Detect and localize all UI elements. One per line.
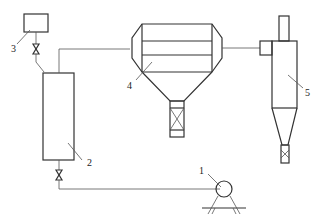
label-1: 1 [199, 165, 204, 176]
label-3: 3 [11, 43, 16, 54]
leader-5 [288, 75, 303, 88]
leader-1 [208, 174, 221, 187]
column-2 [43, 73, 74, 160]
leader-4 [136, 62, 152, 80]
pipe-column-vessel [59, 49, 130, 73]
label-5: 5 [305, 87, 310, 98]
vessel-4 [132, 24, 222, 137]
valve-top-icon [33, 44, 39, 54]
pipe-valve-pump [59, 180, 220, 189]
cyclone-5 [260, 16, 297, 163]
tank-3 [24, 14, 48, 32]
label-4: 4 [127, 80, 132, 91]
valve-bottom-icon [56, 170, 62, 180]
process-diagram: 3 2 1 4 [0, 0, 322, 224]
pump-base [202, 196, 246, 214]
pipe-valve-column [36, 54, 44, 72]
label-2: 2 [87, 157, 92, 168]
leader-2 [68, 143, 82, 160]
